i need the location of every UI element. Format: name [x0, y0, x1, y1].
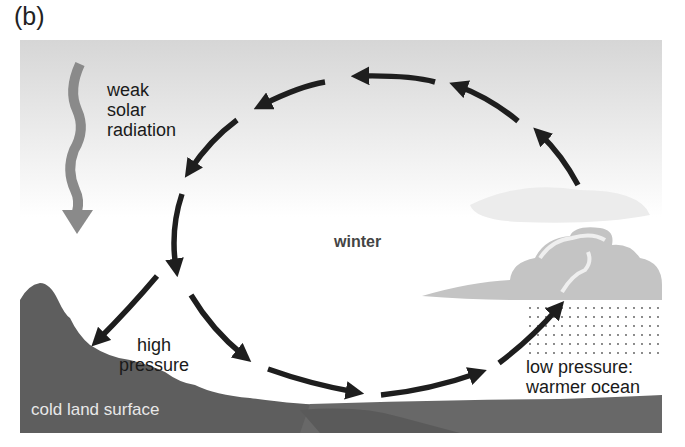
rain-stipple [525, 302, 662, 354]
high-pressure-label: high pressure [119, 335, 189, 375]
weak-solar-radiation-label: weak solar radiation [107, 80, 176, 140]
low-pressure-label: low pressure: warmer ocean [526, 357, 640, 397]
cold-land-label: cold land surface [31, 400, 160, 420]
season-label: winter [334, 232, 381, 252]
